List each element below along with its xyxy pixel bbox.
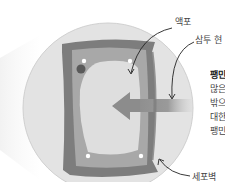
diagram-graphic bbox=[0, 0, 225, 182]
plant-cell-diagram: 액포 삼투 현 세포벽 팽민 많은 밖으 대한 팽민 bbox=[0, 0, 225, 182]
side-text-line: 밖으 bbox=[210, 98, 225, 109]
side-text-block: 팽민 많은 밖으 대한 팽민 bbox=[210, 70, 225, 140]
cell-wall-label-text: 세포벽 bbox=[192, 172, 216, 182]
side-text-heading: 팽민 bbox=[210, 70, 225, 81]
osmosis-label: 삼투 현 bbox=[195, 35, 222, 46]
side-text-line: 대한 bbox=[210, 112, 225, 123]
side-text-line: 팽민 bbox=[210, 126, 225, 137]
nucleus bbox=[77, 65, 86, 74]
vacuole-label: 액포 bbox=[175, 17, 191, 28]
side-text-line: 많은 bbox=[210, 84, 225, 95]
